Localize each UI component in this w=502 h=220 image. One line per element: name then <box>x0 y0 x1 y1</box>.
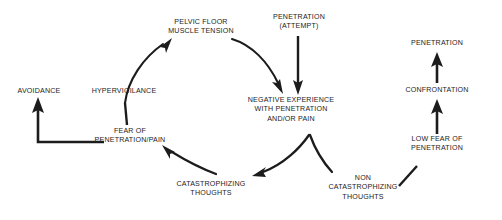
node-confrontation: CONFRONTATION <box>405 86 468 95</box>
node-penetration-attempt: PENETRATION (ATTEMPT) <box>273 13 325 32</box>
node-hypervigilance: HYPERVIGILANCE <box>92 87 157 96</box>
edge-fear-to-avoidance <box>32 97 104 142</box>
diagram-canvas: AVOIDANCE HYPERVIGILANCE PELVIC FLOOR MU… <box>0 0 502 220</box>
edge-pelvic-floor-to-negative-experience <box>232 39 283 94</box>
edge-negative-experience-to-catastrophizing <box>252 135 309 177</box>
edge-confrontation-to-penetration <box>431 52 443 83</box>
node-catastrophizing-thoughts: CATASTROPHIZING THOUGHTS <box>176 180 245 199</box>
edge-catastrophizing-to-fear <box>162 145 216 174</box>
node-pelvic-floor-muscle-tension: PELVIC FLOOR MUSCLE TENSION <box>168 18 233 37</box>
node-non-catastrophizing-thoughts: NON CATASTROPHIZING THOUGHTS <box>328 174 397 202</box>
node-fear-of-penetration: FEAR OF PENETRATION/PAIN <box>95 127 166 146</box>
arrowhead-icon <box>162 145 175 159</box>
edge-attempt-to-negative-experience <box>293 36 303 95</box>
edge-fear-to-hypervigilance <box>125 103 127 125</box>
node-negative-experience: NEGATIVE EXPERIENCE WITH PENETRATION AND… <box>248 96 334 124</box>
node-penetration: PENETRATION <box>411 39 463 48</box>
edge-negative-experience-to-non-catastrophizing <box>310 135 332 172</box>
edge-low-fear-to-confrontation <box>431 99 443 134</box>
node-avoidance: AVOIDANCE <box>18 87 61 96</box>
edge-non-catastrophizing-to-low-fear <box>399 166 417 186</box>
node-low-fear-of-penetration: LOW FEAR OF PENETRATION <box>411 135 463 154</box>
